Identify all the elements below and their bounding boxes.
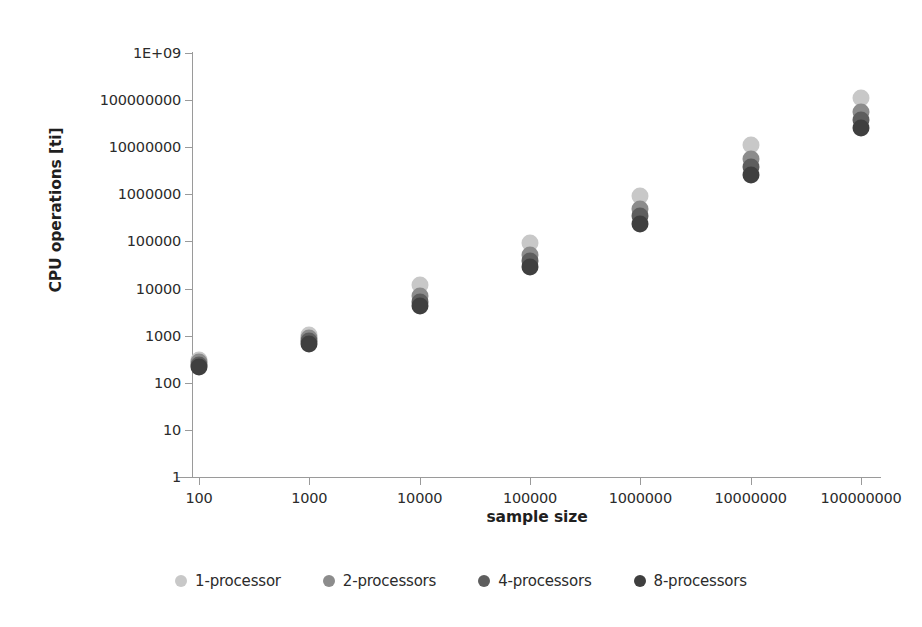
y-axis-tick-label: 100000 (127, 233, 181, 249)
legend-marker-icon (634, 575, 646, 587)
x-axis-tick-label: 100 (185, 490, 212, 506)
legend-marker-icon (175, 575, 187, 587)
y-axis-title: CPU operations [ti] (36, 0, 76, 420)
y-axis-tick-label: 10 (163, 422, 181, 438)
data-point (301, 336, 318, 353)
x-axis-tick (309, 477, 310, 485)
x-axis-tick (640, 477, 641, 485)
y-axis-tick (185, 194, 193, 195)
x-axis-title: sample size (193, 508, 881, 526)
legend-marker-icon (478, 575, 490, 587)
legend-item[interactable]: 1-processor (175, 572, 281, 590)
chart-legend: 1-processor2-processors4-processors8-pro… (0, 572, 922, 590)
y-axis-tick (185, 147, 193, 148)
y-axis-tick (185, 53, 193, 54)
legend-item-label: 1-processor (195, 572, 281, 590)
x-axis-tick (530, 477, 531, 485)
data-point (522, 258, 539, 275)
chart-container: CPU operations [ti] 1E+09100000000100000… (0, 0, 922, 627)
x-axis-line (176, 477, 881, 478)
x-axis-tick-label: 10000 (397, 490, 442, 506)
legend-item-label: 2-processors (343, 572, 436, 590)
legend-item-label: 4-processors (498, 572, 591, 590)
y-axis-tick-label: 1E+09 (133, 45, 181, 61)
y-axis-tick (185, 100, 193, 101)
x-axis-tick-label: 1000000 (609, 490, 672, 506)
y-axis-tick (185, 241, 193, 242)
y-axis-tick-label: 10000 (136, 281, 181, 297)
x-axis-tick-label: 100000 (503, 490, 557, 506)
data-point (853, 119, 870, 136)
y-axis-tick (185, 430, 193, 431)
data-point (632, 215, 649, 232)
x-axis-tick (199, 477, 200, 485)
data-point (742, 166, 759, 183)
x-axis-tick-label: 10000000 (715, 490, 787, 506)
x-axis-tick-label: 100000000 (820, 490, 901, 506)
x-axis-tick-label: 1000 (291, 490, 327, 506)
y-axis-tick (185, 477, 193, 478)
legend-item[interactable]: 4-processors (478, 572, 591, 590)
x-axis-tick (751, 477, 752, 485)
y-axis-tick-label: 100000000 (100, 92, 181, 108)
y-axis-tick-label: 1000000 (118, 186, 181, 202)
data-point (191, 359, 208, 376)
data-point (411, 298, 428, 315)
x-axis-tick (861, 477, 862, 485)
legend-item-label: 8-processors (654, 572, 747, 590)
y-axis-tick-label: 100 (154, 375, 181, 391)
y-axis-tick-label: 1 (172, 469, 181, 485)
legend-marker-icon (323, 575, 335, 587)
legend-item[interactable]: 8-processors (634, 572, 747, 590)
y-axis-tick-label: 1000 (145, 328, 181, 344)
plot-area: 1E+0910000000010000000100000010000010000… (193, 53, 881, 477)
legend-item[interactable]: 2-processors (323, 572, 436, 590)
y-axis-tick (185, 336, 193, 337)
y-axis-tick-label: 10000000 (109, 139, 181, 155)
y-axis-tick (185, 289, 193, 290)
y-axis-tick (185, 383, 193, 384)
x-axis-tick (420, 477, 421, 485)
